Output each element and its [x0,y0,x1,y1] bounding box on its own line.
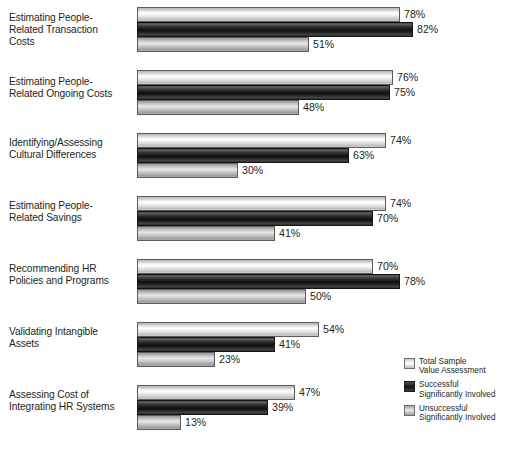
category-label-3: Estimating People-Related Savings [9,200,131,224]
bar-6-0 [137,385,295,400]
bar-value-label: 70% [373,259,398,274]
bar-value-label: 47% [295,385,320,400]
bar-1-1 [137,85,390,100]
bar-2-2 [137,163,238,178]
category-label-1: Estimating People-Related Ongoing Costs [9,76,131,100]
bar-value-label: 82% [413,22,438,37]
bar-3-2 [137,226,275,241]
bar-6-2 [137,415,181,430]
legend-item-total-sample: Total Sample Value Assessment [404,357,512,376]
bar-4-1 [137,274,400,289]
bar-value-label: 41% [275,337,300,352]
bar-5-0 [137,322,319,337]
bar-value-label: 50% [306,289,331,304]
bar-6-1 [137,400,268,415]
bar-value-label: 70% [373,211,398,226]
bar-2-1 [137,148,349,163]
bar-value-label: 51% [309,37,334,52]
bar-0-2 [137,37,309,52]
bar-value-label: 39% [268,400,293,415]
bar-value-label: 75% [390,85,415,100]
bar-3-0 [137,196,386,211]
bar-1-0 [137,70,393,85]
legend-swatch-total-sample-icon [404,358,415,369]
legend-swatch-unsuccessful-icon [404,405,415,416]
legend-item-successful: Successful Significantly Involved [404,380,512,399]
legend-label-line1: Total Sample [419,357,466,366]
legend-label-line2: Value Assessment [419,366,486,375]
horizontal-bar-chart: Estimating People-Related TransactionCos… [0,0,513,456]
bar-value-label: 74% [386,196,411,211]
bar-value-label: 54% [319,322,344,337]
bar-2-0 [137,133,386,148]
bar-3-1 [137,211,373,226]
bar-value-label: 76% [393,70,418,85]
bar-1-2 [137,100,299,115]
chart-legend: Total Sample Value Assessment Successful… [404,357,512,427]
bar-value-label: 41% [275,226,300,241]
legend-swatch-successful-icon [404,381,415,392]
legend-label-line2: Significantly Involved [419,413,495,422]
legend-label-total-sample: Total Sample Value Assessment [419,357,486,376]
category-label-2: Identifying/AssessingCultural Difference… [9,137,131,161]
bar-value-label: 78% [400,274,425,289]
bar-5-2 [137,352,215,367]
bar-value-label: 13% [181,415,206,430]
bar-5-1 [137,337,275,352]
legend-label-successful: Successful Significantly Involved [419,380,495,399]
bar-value-label: 74% [386,133,411,148]
category-label-5: Validating IntangibleAssets [9,326,131,350]
bar-value-label: 63% [349,148,374,163]
legend-label-line2: Significantly Involved [419,390,495,399]
bar-value-label: 23% [215,352,240,367]
bar-0-1 [137,22,413,37]
bar-4-2 [137,289,306,304]
bar-value-label: 78% [400,7,425,22]
category-label-4: Recommending HRPolicies and Programs [9,263,131,287]
bar-value-label: 30% [238,163,263,178]
bar-value-label: 48% [299,100,324,115]
category-label-0: Estimating People-Related TransactionCos… [9,12,131,49]
bar-4-0 [137,259,373,274]
category-label-6: Assessing Cost ofIntegrating HR Systems [9,389,131,413]
bar-0-0 [137,7,400,22]
legend-label-line1: Successful [419,380,459,389]
legend-label-unsuccessful: Unsuccessful Significantly Involved [419,404,495,423]
legend-label-line1: Unsuccessful [419,404,468,413]
legend-item-unsuccessful: Unsuccessful Significantly Involved [404,404,512,423]
